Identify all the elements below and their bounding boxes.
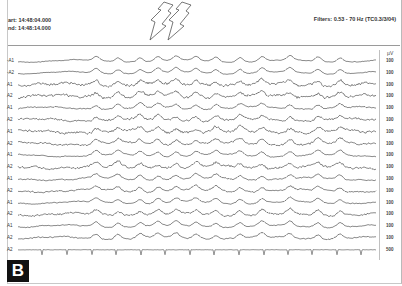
ecg-trace	[18, 250, 376, 255]
eeg-trace	[18, 55, 376, 62]
panel-label: B	[7, 260, 29, 282]
eeg-trace	[18, 173, 376, 181]
eeg-trace	[18, 91, 376, 99]
eeg-trace	[18, 161, 376, 170]
eeg-trace	[18, 67, 376, 74]
eeg-trace	[18, 185, 376, 193]
eeg-trace	[18, 114, 376, 122]
eeg-traces	[0, 0, 402, 286]
eeg-trace	[18, 137, 376, 145]
eeg-trace	[18, 208, 376, 217]
eeg-trace	[18, 221, 376, 228]
eeg-trace	[18, 232, 376, 239]
eeg-trace	[18, 125, 376, 134]
eeg-trace	[18, 197, 376, 205]
eeg-trace	[18, 150, 376, 157]
eeg-trace	[18, 102, 376, 110]
eeg-trace	[18, 78, 376, 87]
